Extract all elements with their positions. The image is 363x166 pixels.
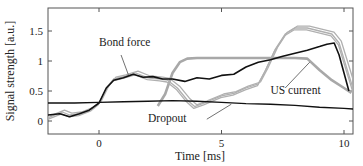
y-tick-label: 1 <box>38 55 44 67</box>
annotation-leader <box>207 104 232 119</box>
y-axis-label: Signal strength [a.u.] <box>3 21 17 122</box>
chart-canvas: 00.511.5 0510 Bond forceUS currentDropou… <box>0 0 363 166</box>
signal-chart: 00.511.5 0510 Bond forceUS currentDropou… <box>0 0 363 166</box>
x-tick-label: 5 <box>219 137 225 149</box>
plot-frame <box>48 8 353 134</box>
y-tick-label: 0.5 <box>29 85 43 97</box>
annotation-label: US current <box>271 84 322 96</box>
annotations-layer: Bond forceUS currentDropout <box>99 36 321 125</box>
series-bond-force-repetitions-gray <box>48 28 354 118</box>
y-tick-label: 0 <box>38 115 44 127</box>
x-axis-label: Time [ms] <box>175 149 225 163</box>
series-layer <box>47 26 356 120</box>
x-tick-label: 0 <box>96 137 102 149</box>
y-axis: 00.511.5 <box>29 25 353 127</box>
annotation-label: Bond force <box>99 36 150 48</box>
annotation-label: Dropout <box>148 112 187 125</box>
annotation-leader <box>121 55 128 75</box>
x-tick-label: 10 <box>339 137 351 149</box>
y-tick-label: 1.5 <box>29 25 43 37</box>
